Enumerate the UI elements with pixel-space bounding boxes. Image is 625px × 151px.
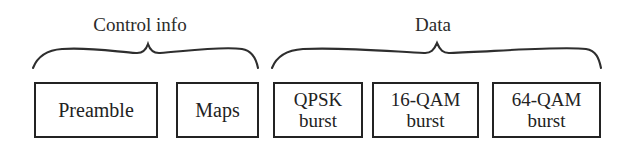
segment-box-qpsk-burst: QPSK burst bbox=[273, 82, 363, 138]
segment-label-64-qam-burst-line1: 64-QAM bbox=[512, 89, 582, 110]
curly-brace-horizontal-icon-data bbox=[272, 43, 601, 68]
segment-label-qpsk-burst-line2: burst bbox=[299, 110, 337, 131]
segment-label-maps-line1: Maps bbox=[195, 100, 239, 121]
segment-label-16-qam-burst-line2: burst bbox=[407, 110, 445, 131]
segment-box-maps: Maps bbox=[176, 82, 259, 138]
segment-label-qpsk-burst-line1: QPSK bbox=[294, 89, 343, 110]
segment-label-64-qam-burst-line2: burst bbox=[528, 110, 566, 131]
segment-box-64-qam-burst: 64-QAM burst bbox=[492, 82, 601, 138]
segment-label-16-qam-burst-line1: 16-QAM bbox=[391, 89, 461, 110]
frame-structure-diagram: Control info Data Preamble Maps QPSK bur… bbox=[0, 0, 625, 151]
segment-box-16-qam-burst: 16-QAM burst bbox=[372, 82, 479, 138]
group-label-data: Data bbox=[373, 14, 493, 36]
segment-label-preamble-line1: Preamble bbox=[58, 100, 134, 121]
curly-brace-horizontal-icon-control-info bbox=[33, 44, 258, 68]
group-label-control-info: Control info bbox=[72, 14, 208, 36]
segment-box-preamble: Preamble bbox=[34, 82, 158, 138]
